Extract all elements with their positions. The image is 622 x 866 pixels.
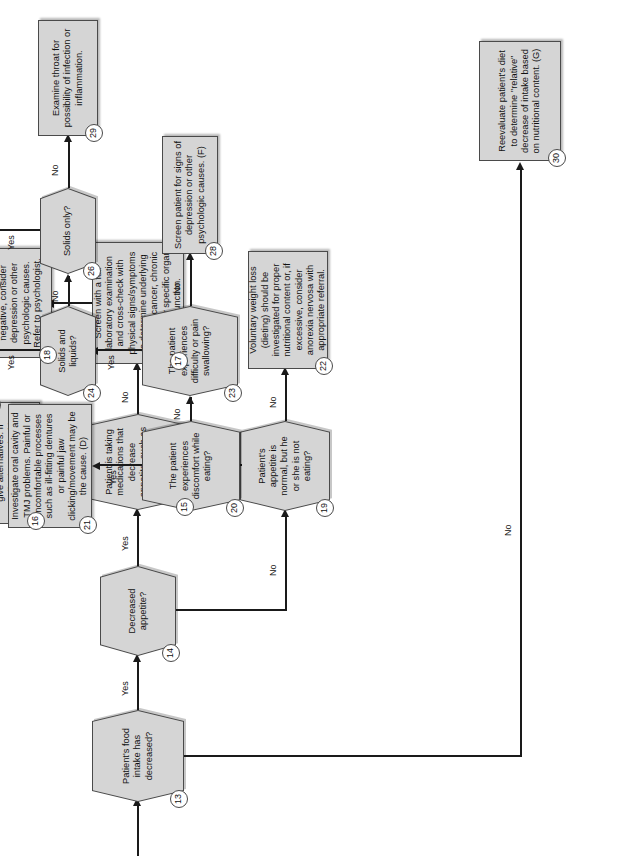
edge-26-27-line [0,229,40,231]
entry-line [137,804,139,856]
edge-15-17-label: No [120,391,130,403]
node-14[interactable]: Decreased appetite? [100,566,176,656]
edge-23-24-label: Yes [106,355,116,370]
node-13-id: 13 [170,790,188,808]
node-21[interactable]: Investigate oral cavity and TMJ problems… [8,404,92,528]
edge-13-14-line [137,660,139,710]
node-26-id: 26 [83,262,101,280]
node-21-id: 21 [79,516,97,534]
edge-24-26-label: No [50,290,60,302]
node-28-label: Screen patient for signs of depression o… [173,141,207,249]
edge-24-25-label: Yes [6,355,16,370]
node-29[interactable]: Examine throat for possibility of infect… [38,20,98,136]
edge-13-30-arrow [516,162,524,170]
edge-13-14-label: Yes [120,681,130,696]
node-16-id: 16 [27,512,45,530]
edge-20-21-label: Yes [108,470,118,485]
edge-23-28-label: No [172,282,182,294]
node-18-label: If history or lab test is negative, cons… [0,253,43,353]
node-19-id: 19 [316,499,334,517]
edge-14-15-label: Yes [120,536,130,551]
edge-24-25-line [0,349,40,351]
edge-14-15-line [137,514,139,566]
node-17-id: 17 [170,352,188,370]
node-22-id: 22 [315,357,333,375]
flowchart-canvas: Patient's food intake has decreased? 13 … [0,0,622,866]
node-30-id: 30 [548,149,566,167]
edge-15-17-line [137,368,139,414]
edge-24-26-arrow [64,274,72,282]
node-14-id: 14 [162,644,180,662]
edge-14-19-hline [285,515,287,611]
node-23[interactable]: The patient experiences difficulty or pa… [142,306,238,396]
edge-13-30-hline [520,167,522,757]
edge-19-22-label: No [268,396,278,408]
edge-23-24-line [96,349,142,351]
edge-26-27-label: Yes [6,235,16,250]
node-22-label: Voluntary weight loss (dieting) should b… [248,256,327,364]
edge-13-30-label: No [503,524,513,536]
node-21-label: Investigate oral cavity and TMJ problems… [10,409,89,523]
node-29-id: 29 [85,124,103,142]
edge-26-29-line [68,140,70,188]
edge-20-21-line [98,464,142,466]
node-28-id: 28 [205,242,223,260]
edge-19-22-line [285,373,287,421]
node-15-id: 15 [176,498,194,516]
node-22[interactable]: Voluntary weight loss (dieting) should b… [248,251,328,369]
node-20-id: 20 [226,499,244,517]
edge-14-19-label: No [268,564,278,576]
edge-26-29-label: No [50,164,60,176]
edge-13-30-vline [184,755,522,757]
node-14-label: Decreased appetite? [101,567,175,655]
node-30-label: Reevaluate patient's diet to determine "… [497,46,542,156]
edge-20-23-arrow [186,396,194,404]
node-23-label: The patient experiences difficulty or pa… [143,307,237,395]
node-24-id: 24 [83,384,101,402]
node-13[interactable]: Patient's food intake has decreased? [92,710,184,802]
node-20-label: The patient experiences discomfort while… [143,422,239,510]
node-28[interactable]: Screen patient for signs of depression o… [162,136,218,254]
node-26-label: Solids only? [41,189,95,273]
edge-20-23-label: No [172,408,182,420]
edge-14-19-vline [176,609,286,611]
node-20[interactable]: The patient experiences discomfort while… [142,421,240,511]
node-19[interactable]: Patient's appetite is normal, but he or … [240,421,330,511]
edge-23-28-line [190,258,192,306]
edge-17-18-line [52,302,92,304]
node-29-label: Examine throat for possibility of infect… [51,25,85,131]
node-13-label: Patient's food intake has decreased? [93,711,183,801]
edge-20-21-arrow [92,462,100,470]
node-19-label: Patient's appetite is normal, but he or … [241,422,329,510]
node-18-id: 18 [39,346,57,364]
node-30[interactable]: Reevaluate patient's diet to determine "… [479,41,561,161]
node-23-id: 23 [224,384,242,402]
node-26[interactable]: Solids only? [40,188,96,274]
